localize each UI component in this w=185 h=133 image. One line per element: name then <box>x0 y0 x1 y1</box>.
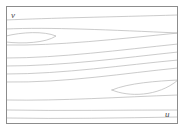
v-axis-label: v <box>11 11 15 20</box>
contour-plot-canvas <box>0 0 185 133</box>
u-axis-label: u <box>165 110 170 119</box>
contour-figure: v u <box>0 0 185 133</box>
plot-frame <box>7 7 178 124</box>
